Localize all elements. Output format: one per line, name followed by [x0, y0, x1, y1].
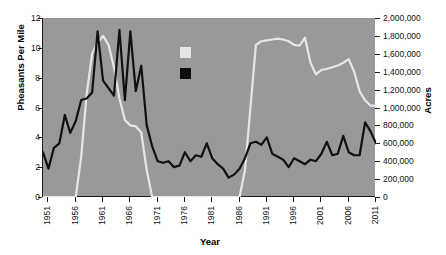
y-axis-right-tick-mark — [375, 18, 380, 19]
y-axis-right-tick-label: 1,200,000 — [383, 85, 421, 95]
y-axis-right-tick-mark — [375, 161, 380, 162]
y-axis-left-tick-mark — [38, 137, 42, 138]
y-axis-right-tick-mark — [375, 108, 380, 109]
x-axis-tick-mark — [348, 197, 349, 202]
y-axis-right-tick-label: 600,000 — [383, 138, 414, 148]
x-axis-tick-mark — [129, 197, 130, 202]
y-axis-right-tick-mark — [375, 143, 380, 144]
x-axis-tick-mark — [320, 197, 321, 202]
x-axis-tick-label: 1996 — [288, 206, 298, 225]
x-axis-tick-mark — [47, 197, 48, 202]
x-axis-tick-mark — [75, 197, 76, 202]
y-axis-right-tick-mark — [375, 90, 380, 91]
plot-area — [42, 18, 375, 197]
y-axis-right-title: Acres — [422, 71, 433, 131]
legend-swatch-acres — [180, 47, 191, 58]
y-axis-right-tick-label: 1,400,000 — [383, 67, 421, 77]
x-axis-tick-label: 1986 — [234, 206, 244, 225]
chart-legend — [180, 47, 196, 79]
y-axis-left-tick-mark — [38, 197, 42, 198]
x-axis-tick-mark — [157, 197, 158, 202]
y-axis-left-title: Pheasants Per Mile — [15, 13, 26, 123]
x-axis-tick-label: 1951 — [42, 206, 52, 225]
y-axis-right-tick-label: 400,000 — [383, 156, 414, 166]
legend-swatch-pheasants — [180, 68, 191, 79]
y-axis-left-tick-mark — [38, 108, 42, 109]
x-axis-tick-mark — [293, 197, 294, 202]
x-axis-tick-label: 1981 — [206, 206, 216, 225]
y-axis-left-tick-mark — [38, 48, 42, 49]
x-axis-tick-label: 1991 — [261, 206, 271, 225]
x-axis-tick-label: 1956 — [70, 206, 80, 225]
x-axis-tick-mark — [102, 197, 103, 202]
y-axis-right-tick-mark — [375, 36, 380, 37]
x-axis-title: Year — [150, 236, 270, 247]
acres-line — [43, 36, 376, 197]
x-axis-tick-mark — [239, 197, 240, 202]
y-axis-right-tick-mark — [375, 72, 380, 73]
y-axis-right-tick-mark — [375, 54, 380, 55]
y-axis-right-tick-label: 1,600,000 — [383, 49, 421, 59]
x-axis-tick-mark — [184, 197, 185, 202]
y-axis-right-tick-label: 200,000 — [383, 174, 414, 184]
y-axis-right-tick-mark — [375, 179, 380, 180]
y-axis-right-tick-label: 1,000,000 — [383, 103, 421, 113]
chart-container: Pheasants Per Mile Acres Year 024681012 … — [0, 0, 446, 255]
x-axis-tick-mark — [375, 197, 376, 202]
y-axis-left-tick-mark — [38, 78, 42, 79]
y-axis-left-tick-mark — [38, 18, 42, 19]
x-axis-tick-label: 1976 — [179, 206, 189, 225]
y-axis-right-tick-label: 1,800,000 — [383, 31, 421, 41]
y-axis-right-tick-mark — [375, 125, 380, 126]
x-axis-tick-label: 2011 — [370, 206, 380, 224]
x-axis-tick-label: 2006 — [343, 206, 353, 225]
x-axis-tick-label: 1961 — [97, 206, 107, 225]
y-axis-left-tick-mark — [38, 167, 42, 168]
y-axis-right-tick-label: 0 — [383, 192, 388, 202]
x-axis-tick-label: 2001 — [315, 206, 325, 225]
y-axis-right-tick-label: 800,000 — [383, 120, 414, 130]
series-canvas — [43, 18, 376, 197]
x-axis-tick-label: 1971 — [152, 206, 162, 225]
x-axis-tick-mark — [211, 197, 212, 202]
x-axis-tick-mark — [266, 197, 267, 202]
x-axis-tick-label: 1966 — [124, 206, 134, 225]
y-axis-right-tick-label: 2,000,000 — [383, 13, 421, 23]
